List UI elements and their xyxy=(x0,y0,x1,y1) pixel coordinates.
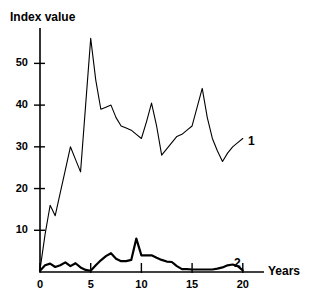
data-series-layer xyxy=(40,38,243,270)
series-line-1 xyxy=(40,38,243,270)
plot-area xyxy=(0,0,310,306)
line-chart: Index value Years 1020304050 05101520 12 xyxy=(0,0,310,306)
